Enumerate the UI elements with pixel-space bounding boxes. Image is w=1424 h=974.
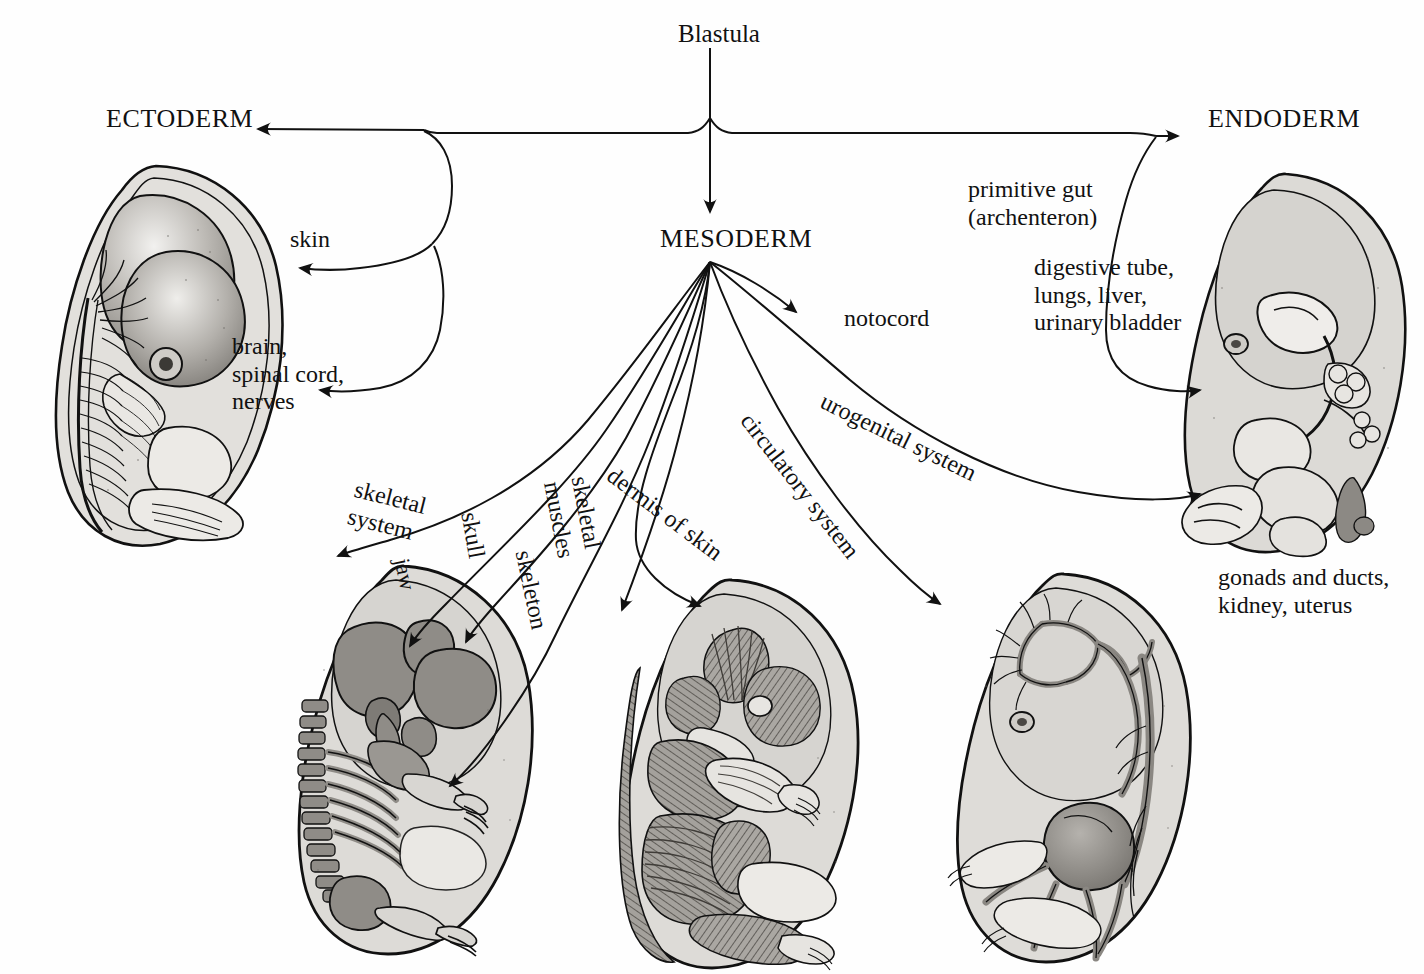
occipital-muscle	[666, 676, 720, 734]
eye	[748, 696, 772, 716]
fork-right-top	[710, 118, 1156, 136]
gonad	[1354, 517, 1374, 535]
label-brain-spinal-cord-nerves: brain, spinal cord, nerves	[232, 333, 344, 416]
label-digestive-tube: digestive tube, lungs, liver, urinary bl…	[1034, 254, 1181, 337]
ectoderm-branch-stem	[424, 131, 452, 244]
label-skeletal-muscles: skeletal muscles	[538, 474, 607, 560]
arrow-skeletal-muscles	[622, 262, 710, 610]
label-primitive-gut: primitive gut (archenteron)	[968, 176, 1097, 231]
hindbrain	[121, 251, 244, 386]
caption-gonads-kidney-uterus: gonads and ducts, kidney, uterus	[1218, 564, 1389, 619]
eye-pupil	[159, 357, 173, 371]
fork-left-top	[424, 118, 710, 133]
skull-plate-occipital	[414, 649, 496, 728]
germ-layer-ectoderm: ECTODERM	[106, 104, 253, 134]
label-notocord: notocord	[844, 305, 929, 333]
germ-layer-mesoderm: MESODERM	[660, 224, 812, 254]
label-circulatory-system: circulatory system	[734, 408, 864, 564]
eye-pupil	[1231, 340, 1241, 348]
mesoderm-embryo-skeletal-system	[288, 560, 548, 960]
blastula-title: Blastula	[678, 20, 760, 49]
label-skull: skull	[455, 510, 490, 561]
mesoderm-embryo-circulatory-system	[946, 566, 1206, 966]
arrow-notocord	[710, 262, 796, 312]
heart	[1044, 803, 1134, 890]
mesoderm-embryo-muscular-system	[612, 572, 872, 972]
pelvis	[330, 876, 391, 930]
endoderm-embryo-digestive-system	[1178, 168, 1418, 558]
label-skin: skin	[290, 226, 330, 254]
germ-layer-endoderm: ENDODERM	[1208, 104, 1360, 134]
label-urogenital-system: urogenital system	[816, 388, 981, 487]
label-skeletal-system: skeletal system	[345, 476, 429, 547]
label-dermis-of-skin: dermis of skin	[601, 462, 727, 567]
germ-layer-derivatives-diagram: Blastula ECTODERM MESODERM ENDODERM skin…	[0, 0, 1424, 974]
eye-pupil	[1017, 718, 1027, 726]
arrow-to-ectoderm	[258, 129, 424, 130]
